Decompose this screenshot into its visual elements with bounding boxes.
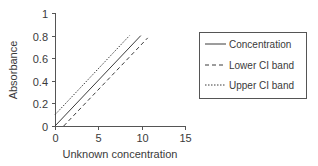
y-tick-label: 0.8 bbox=[33, 31, 48, 43]
y-tick-label: 0.2 bbox=[33, 98, 48, 110]
y-axis-title: Absorbance bbox=[7, 41, 19, 100]
legend-label: Lower CI band bbox=[229, 60, 294, 71]
series-concentration bbox=[55, 36, 141, 126]
x-tick-label: 10 bbox=[136, 132, 148, 144]
y-tick-label: 1 bbox=[42, 8, 48, 20]
legend: Concentration Lower CI band Upper CI ban… bbox=[200, 33, 307, 99]
y-tick-label: 0 bbox=[42, 121, 48, 133]
plot-area bbox=[55, 36, 148, 126]
y-tick-label: 0.4 bbox=[33, 76, 48, 88]
x-tick-label: 5 bbox=[95, 132, 101, 144]
y-axis: 00.20.40.60.81 bbox=[33, 8, 56, 133]
x-axis-title: Unknown concentration bbox=[63, 148, 178, 160]
legend-label: Upper CI band bbox=[229, 80, 294, 91]
legend-label: Concentration bbox=[229, 39, 291, 50]
x-tick-label: 15 bbox=[179, 132, 191, 144]
series-upper-ci-band bbox=[55, 36, 130, 115]
chart: 00.20.40.60.81 051015 Unknown concentrat… bbox=[0, 0, 318, 166]
x-tick-label: 0 bbox=[52, 132, 58, 144]
y-tick-label: 0.6 bbox=[33, 53, 48, 65]
series-lower-ci-band bbox=[64, 38, 148, 126]
x-axis: 051015 bbox=[52, 126, 191, 144]
